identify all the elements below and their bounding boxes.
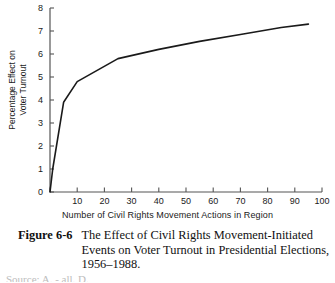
svg-text:4: 4 (38, 95, 43, 105)
svg-text:0: 0 (38, 187, 43, 197)
svg-text:5: 5 (38, 72, 43, 82)
x-axis-title: Number of Civil Rights Movement Actions … (0, 210, 335, 220)
svg-text:3: 3 (38, 118, 43, 128)
y-axis-title-line-2: Voter Turnout (18, 30, 29, 150)
figure-container: 012345678 102030405060708090100 Percenta… (0, 0, 335, 228)
svg-text:40: 40 (154, 196, 164, 206)
y-axis-title-line-1: Percentage Effect on (7, 30, 18, 150)
svg-text:20: 20 (99, 196, 109, 206)
figure-number: Figure 6-6 (18, 228, 73, 243)
svg-text:70: 70 (235, 196, 245, 206)
svg-text:10: 10 (72, 196, 82, 206)
svg-text:1: 1 (38, 164, 43, 174)
svg-text:90: 90 (290, 196, 300, 206)
svg-text:100: 100 (314, 196, 329, 206)
svg-text:8: 8 (38, 3, 43, 13)
svg-text:30: 30 (127, 196, 137, 206)
svg-text:7: 7 (38, 26, 43, 36)
figure-caption-text: The Effect of Civil Rights Movement-Init… (82, 228, 331, 272)
svg-text:80: 80 (263, 196, 273, 206)
y-axis-title: Percentage Effect on Voter Turnout (7, 30, 31, 150)
svg-text:60: 60 (208, 196, 218, 206)
svg-text:2: 2 (38, 141, 43, 151)
x-axis-tick-labels: 102030405060708090100 (72, 196, 329, 206)
figure-caption: Figure 6-6 The Effect of Civil Rights Mo… (18, 228, 330, 272)
svg-text:6: 6 (38, 49, 43, 59)
cut-off-source-line: Source: A. - all. D. (6, 273, 186, 282)
chart-plot: 012345678 102030405060708090100 (0, 0, 335, 228)
svg-text:50: 50 (181, 196, 191, 206)
data-series-line (50, 24, 308, 192)
x-axis-ticks (50, 188, 322, 193)
y-axis-tick-labels: 012345678 (38, 3, 43, 197)
